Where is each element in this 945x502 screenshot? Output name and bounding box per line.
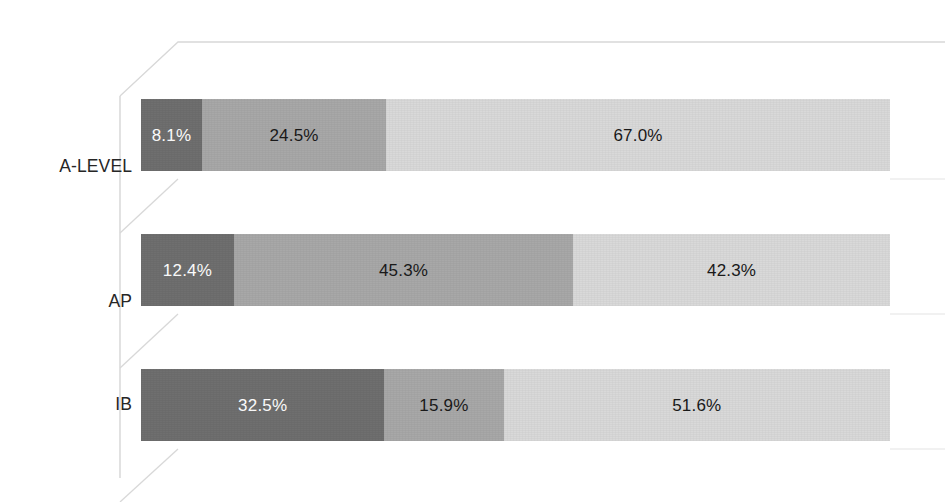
bar-segment-value: 32.5% [238, 397, 287, 414]
bar-segment: 12.4% [141, 234, 234, 306]
category-label-a-level: A-LEVEL [0, 156, 132, 178]
category-label-ib: IB [0, 394, 132, 416]
bar-segment: 42.3% [573, 234, 890, 306]
chart-container: A-LEVEL AP IB 8.1% 24.5% 67.0% 12.4% 45.… [0, 0, 945, 502]
frame-floor-diagonal-1 [120, 179, 178, 233]
bar-segment-value: 8.1% [152, 127, 192, 144]
bar-segment-value: 24.5% [269, 127, 318, 144]
frame-top-edge [120, 42, 945, 96]
bar-segment-value: 67.0% [613, 127, 662, 144]
category-label-text: A-LEVEL [12, 156, 132, 177]
bar-segment-value: 12.4% [163, 262, 212, 279]
bar-row-ib: 32.5% 15.9% 51.6% [141, 369, 890, 441]
category-label-text: AP [12, 291, 132, 312]
bar-segment-value: 45.3% [379, 262, 428, 279]
bar-segment: 45.3% [234, 234, 573, 306]
bar-segment-value: 15.9% [419, 397, 468, 414]
bar-row-a-level: 8.1% 24.5% 67.0% [141, 99, 890, 171]
frame-floor-diagonal-3 [120, 449, 178, 502]
bar-segment: 67.0% [386, 99, 890, 171]
bar-row-ap: 12.4% 45.3% 42.3% [141, 234, 890, 306]
bar-segment: 8.1% [141, 99, 202, 171]
bar-segment: 51.6% [504, 369, 890, 441]
bar-segment: 32.5% [141, 369, 384, 441]
category-label-ap: AP [0, 291, 132, 313]
bar-segment: 15.9% [384, 369, 503, 441]
bar-segment-value: 42.3% [707, 262, 756, 279]
frame-floor-diagonal-2 [120, 314, 178, 368]
bar-segment-value: 51.6% [672, 397, 721, 414]
category-label-text: IB [12, 394, 132, 415]
bar-segment: 24.5% [202, 99, 386, 171]
